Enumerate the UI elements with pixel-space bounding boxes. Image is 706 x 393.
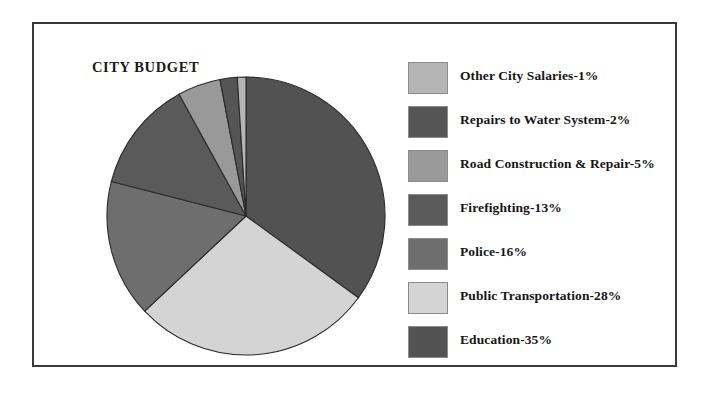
legend-color-swatch: [408, 150, 448, 182]
legend-color-swatch: [408, 194, 448, 226]
legend-item-label: Other City Salaries-1%: [460, 68, 598, 84]
legend-color-swatch: [408, 282, 448, 314]
legend-item[interactable]: Police-16%: [408, 236, 698, 280]
chart-frame: CITY BUDGET Other City Salaries-1%Repair…: [32, 22, 677, 367]
legend-item[interactable]: Education-35%: [408, 324, 698, 368]
legend-item[interactable]: Road Construction & Repair-5%: [408, 148, 698, 192]
legend-item[interactable]: Repairs to Water System-2%: [408, 104, 698, 148]
legend-item-label: Road Construction & Repair-5%: [460, 156, 655, 172]
pie-chart: [104, 74, 388, 358]
legend-color-swatch: [408, 106, 448, 138]
pie-chart-svg: [104, 74, 388, 358]
legend-item-label: Public Transportation-28%: [460, 288, 621, 304]
legend-item-label: Firefighting-13%: [460, 200, 562, 216]
pie-slice-group: [107, 77, 385, 355]
legend-item[interactable]: Public Transportation-28%: [408, 280, 698, 324]
legend-item[interactable]: Firefighting-13%: [408, 192, 698, 236]
legend-item-label: Police-16%: [460, 244, 527, 260]
page-canvas: CITY BUDGET Other City Salaries-1%Repair…: [0, 0, 706, 393]
legend-item-label: Repairs to Water System-2%: [460, 112, 630, 128]
chart-legend: Other City Salaries-1%Repairs to Water S…: [408, 60, 698, 368]
legend-color-swatch: [408, 326, 448, 358]
legend-item-label: Education-35%: [460, 332, 552, 348]
legend-item[interactable]: Other City Salaries-1%: [408, 60, 698, 104]
legend-color-swatch: [408, 238, 448, 270]
legend-color-swatch: [408, 62, 448, 94]
